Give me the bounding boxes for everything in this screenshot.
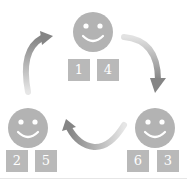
number-box: 4 (97, 59, 119, 81)
number-box: 5 (35, 150, 57, 172)
smiley-face-icon (73, 12, 113, 52)
number-box: 2 (6, 150, 28, 172)
curved-arrow-icon (62, 119, 124, 147)
smiley-face-icon (8, 108, 48, 148)
curved-arrow-icon (124, 37, 166, 93)
number-box: 3 (157, 150, 179, 172)
number-box: 6 (127, 150, 149, 172)
divider (0, 178, 187, 179)
number-box: 1 (68, 59, 90, 81)
smiley-face-icon (135, 108, 175, 148)
curved-arrow-icon (26, 31, 53, 92)
